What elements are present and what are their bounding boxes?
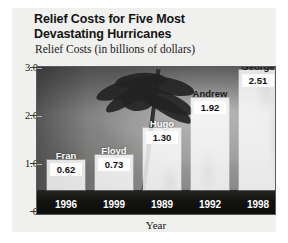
x-tick-label-1992: 1992 [186,199,234,210]
bar-fill [239,70,276,190]
grid-stub-1 [37,164,42,165]
x-tick-label-1999: 1999 [90,199,138,210]
bar-label-hugo: Hugo [138,118,186,129]
chart-title-line-1: Relief Costs for Five Most [34,12,266,27]
bar-value-andrew: 1.92 [194,101,226,114]
plot-area: Fran Floyd Hugo Andrew George 0.62 0.73 … [36,66,276,215]
x-tick-label-1998: 1998 [234,199,276,210]
x-tick-label-1996: 1996 [42,199,90,210]
chart-title-line-2: Devastating Hurricanes [34,27,266,42]
grid-stub-2 [37,116,42,117]
chart-subtitle: Relief Costs (in billions of dollars) [35,43,195,55]
bar-label-fran: Fran [42,150,90,161]
bar-george [239,70,276,190]
bar-value-fran: 0.62 [50,163,82,176]
bar-label-floyd: Floyd [90,145,138,156]
chart-title: Relief Costs for Five Most Devastating H… [34,12,266,41]
chart-figure: Relief Costs for Five Most Devastating H… [0,0,288,243]
bar-value-hugo: 1.30 [146,131,178,144]
bar-value-floyd: 0.73 [98,158,130,171]
bar-label-george: George [234,66,276,72]
x-axis-label: Year [36,219,276,231]
bar-value-george: 2.51 [242,74,274,87]
grid-stub-3 [37,68,42,69]
bar-label-andrew: Andrew [186,88,234,99]
x-tick-label-1989: 1989 [138,199,186,210]
